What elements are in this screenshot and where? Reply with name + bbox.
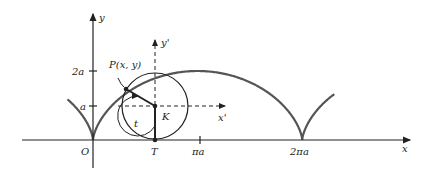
- angle-t-label: t: [134, 118, 139, 129]
- point-p-label: P(x, y): [108, 59, 141, 70]
- tick-pi-a-label: πa: [191, 146, 205, 157]
- tick-2pi-a-label: 2πa: [289, 146, 309, 157]
- cycloid-diagram: y x y' x' O P(x, y) K T t 2a a πa 2πa: [0, 0, 426, 172]
- p-leader-line: [118, 78, 124, 87]
- contact-t-label: T: [151, 146, 159, 157]
- point-p: [124, 87, 129, 92]
- point-k: [153, 104, 158, 109]
- x-axis-label: x: [402, 143, 408, 154]
- origin-label: O: [81, 146, 89, 157]
- cycloid-curve: [67, 71, 334, 140]
- y-axis-label: y: [98, 12, 105, 23]
- y-prime-label: y': [160, 37, 169, 48]
- x-prime-label: x': [218, 112, 226, 123]
- center-k-label: K: [161, 111, 170, 122]
- point-t: [153, 138, 158, 143]
- tick-a-label: a: [80, 101, 86, 112]
- tick-2a-label: 2a: [71, 66, 84, 77]
